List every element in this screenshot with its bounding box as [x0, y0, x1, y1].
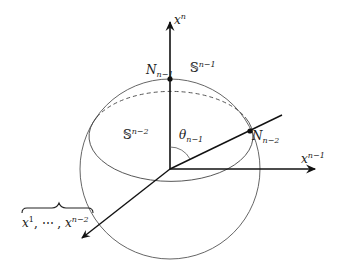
underbrace	[22, 203, 93, 213]
label-inner-sphere: 𝕊n−2	[123, 127, 149, 142]
inner-sphere-front-arc	[89, 117, 253, 181]
label-theta: θn−1	[179, 128, 203, 144]
label-xn-1: xn−1	[301, 151, 325, 166]
label-point-n-2: Nn−2	[251, 129, 279, 145]
label-x1-to-xn-2: x1, ⋯ , xn−2	[22, 215, 89, 230]
label-outer-sphere: 𝕊n−1	[190, 60, 216, 75]
angle-arc	[170, 147, 190, 159]
label-north-pole: Nn−1	[145, 63, 173, 79]
label-xn: xn	[174, 12, 186, 27]
diagram-canvas: xn Nn−1 𝕊n−1 𝕊n−2 θn−1 Nn−2 xn−1 x1, ⋯ ,…	[0, 0, 345, 272]
axis-x1-to-xn-2	[82, 169, 170, 238]
sphere-diagram: xn Nn−1 𝕊n−1 𝕊n−2 θn−1 Nn−2 xn−1 x1, ⋯ ,…	[0, 0, 345, 272]
